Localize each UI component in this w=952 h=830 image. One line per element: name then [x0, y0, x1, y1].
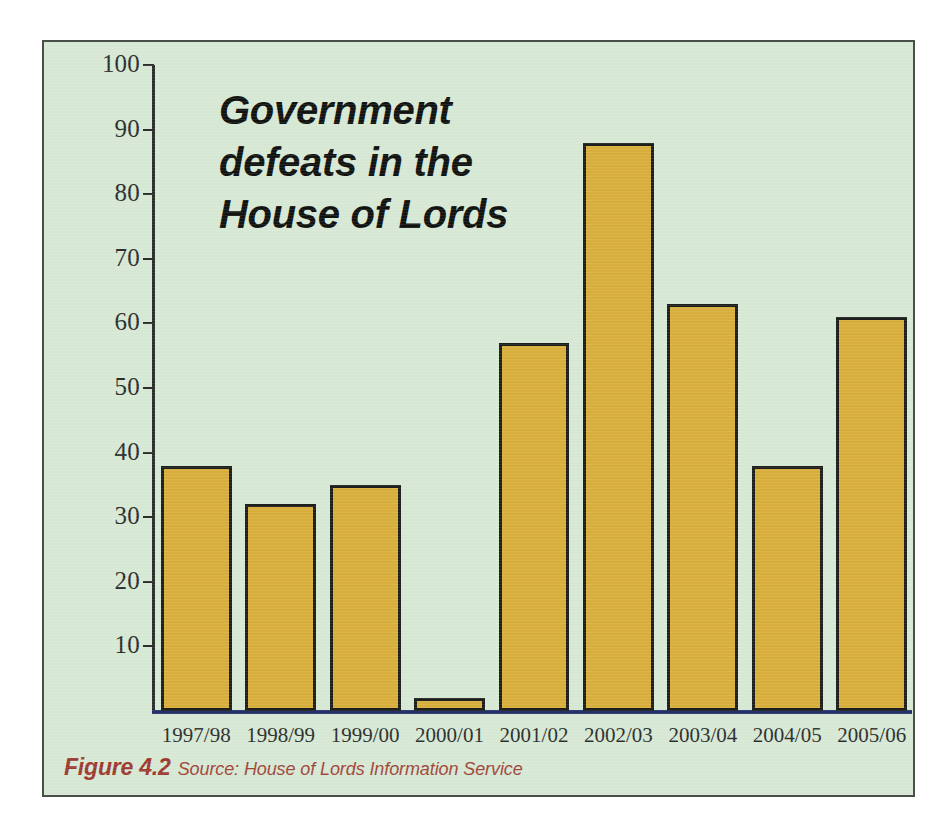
y-axis-tick: [143, 129, 154, 131]
y-axis-tick: [143, 64, 154, 66]
figure-panel: Government defeats in the House of Lords…: [42, 40, 915, 797]
x-axis-tick-label: 1999/00: [331, 723, 400, 748]
x-axis-tick-label: 2003/04: [668, 723, 737, 748]
y-axis-tick: [143, 581, 154, 583]
y-axis-tick-label: 60: [115, 309, 140, 337]
plot-area: 102030405060708090100 1997/981998/991999…: [154, 65, 914, 711]
bar: [499, 343, 570, 711]
bar: [752, 466, 823, 711]
y-axis-tick-label: 80: [115, 180, 140, 208]
bar: [583, 143, 654, 711]
y-axis-tick: [143, 645, 154, 647]
bar-group: 2002/03: [576, 65, 660, 711]
bar: [836, 317, 907, 711]
y-axis-tick-label: 20: [115, 567, 140, 595]
bar-group: 1998/99: [238, 65, 322, 711]
bar: [245, 504, 316, 711]
bar-group: 2000/01: [407, 65, 491, 711]
y-axis-tick: [143, 387, 154, 389]
y-axis-tick-label: 30: [115, 503, 140, 531]
bar: [667, 304, 738, 711]
bar-group: 1999/00: [323, 65, 407, 711]
x-axis-tick-label: 2002/03: [584, 723, 653, 748]
bar-group: 2001/02: [492, 65, 576, 711]
y-axis-tick: [143, 258, 154, 260]
y-axis-tick: [143, 193, 154, 195]
x-axis-tick-label: 2001/02: [500, 723, 569, 748]
y-axis-tick: [143, 322, 154, 324]
y-axis-tick-label: 90: [115, 115, 140, 143]
y-axis-tick-label: 40: [115, 438, 140, 466]
bar-group: 2004/05: [745, 65, 829, 711]
x-axis-tick-label: 2004/05: [753, 723, 822, 748]
x-axis-tick-label: 1997/98: [162, 723, 231, 748]
y-axis-tick-label: 100: [102, 50, 140, 78]
bar-series: 1997/981998/991999/002000/012001/022002/…: [154, 65, 914, 711]
y-axis-tick: [143, 452, 154, 454]
y-axis-tick-label: 70: [115, 244, 140, 272]
y-axis-tick-label: 10: [115, 632, 140, 660]
figure-caption: Figure 4.2Source: House of Lords Informa…: [64, 754, 523, 781]
y-axis-tick-label: 50: [115, 373, 140, 401]
figure-source: Source: House of Lords Information Servi…: [178, 759, 523, 779]
bar: [161, 466, 232, 711]
x-axis-tick-label: 2000/01: [415, 723, 484, 748]
x-axis-tick-label: 1998/99: [246, 723, 315, 748]
figure-number: Figure 4.2: [64, 754, 171, 780]
x-axis-tick-label: 2005/06: [837, 723, 906, 748]
bar-group: 2005/06: [830, 65, 914, 711]
bar: [330, 485, 401, 711]
bar-group: 1997/98: [154, 65, 238, 711]
bar: [414, 698, 485, 711]
y-axis-tick: [143, 516, 154, 518]
bar-group: 2003/04: [661, 65, 745, 711]
